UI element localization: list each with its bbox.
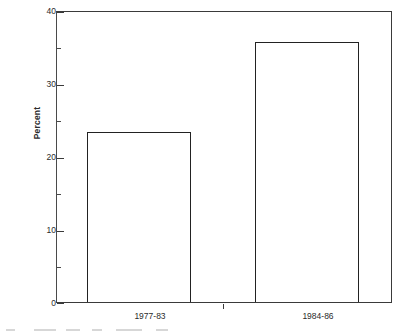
scan-smudge [34, 329, 56, 331]
y-tick-major-40 [57, 12, 64, 13]
y-tick-label-0: 0 [28, 298, 56, 308]
y-tick-minor-15 [57, 194, 61, 195]
x-tick-midpoint [223, 304, 224, 309]
y-tick-major-20 [57, 158, 64, 159]
y-tick-label-20: 20 [28, 152, 56, 162]
scan-smudge [156, 329, 168, 331]
scan-artifact-row [0, 327, 402, 335]
scan-smudge [92, 329, 102, 331]
y-axis-title: Percent [32, 88, 42, 158]
y-tick-label-30: 30 [28, 79, 56, 89]
y-tick-major-10 [57, 231, 64, 232]
scan-smudge [6, 329, 15, 331]
x-tick-label-1984-86: 1984-86 [258, 311, 378, 321]
y-tick-minor-25 [57, 121, 61, 122]
bar-1984-86 [255, 42, 359, 302]
scan-smudge [116, 329, 142, 331]
y-tick-minor-35 [57, 48, 61, 49]
y-tick-label-40: 40 [28, 6, 56, 16]
y-tick-major-0 [57, 303, 64, 304]
plot-area [56, 11, 392, 303]
y-tick-minor-5 [57, 267, 61, 268]
y-tick-label-10: 10 [28, 225, 56, 235]
bar-1977-83 [87, 132, 191, 302]
y-tick-major-30 [57, 85, 64, 86]
bar-chart-figure: Percent 40 30 20 10 0 1977-83 1984-86 [0, 0, 402, 335]
scan-smudge [66, 329, 80, 331]
x-tick-label-1977-83: 1977-83 [90, 311, 210, 321]
